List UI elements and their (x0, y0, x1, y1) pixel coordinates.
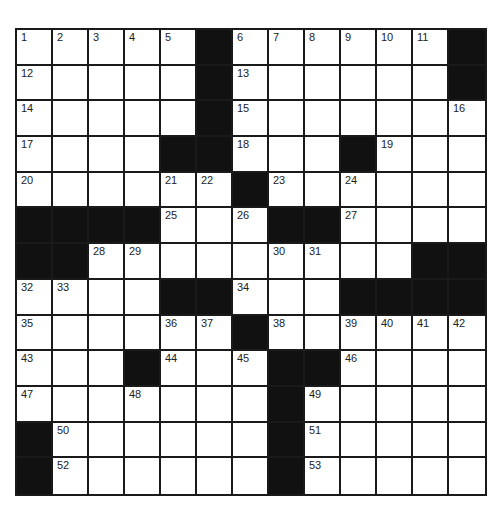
crossword-cell[interactable]: 20 (17, 173, 53, 209)
crossword-cell[interactable]: 29 (125, 244, 161, 280)
crossword-cell[interactable] (377, 351, 413, 387)
crossword-cell[interactable]: 14 (17, 101, 53, 137)
crossword-cell[interactable] (53, 387, 89, 423)
crossword-cell[interactable]: 25 (161, 208, 197, 244)
crossword-cell[interactable] (341, 101, 377, 137)
crossword-cell[interactable]: 18 (233, 137, 269, 173)
crossword-cell[interactable]: 31 (305, 244, 341, 280)
crossword-cell[interactable]: 37 (197, 316, 233, 352)
crossword-cell[interactable]: 22 (197, 173, 233, 209)
crossword-cell[interactable] (377, 244, 413, 280)
crossword-cell[interactable]: 42 (449, 316, 485, 352)
crossword-cell[interactable]: 32 (17, 280, 53, 316)
crossword-cell[interactable] (449, 137, 485, 173)
crossword-cell[interactable] (125, 66, 161, 102)
crossword-cell[interactable] (161, 387, 197, 423)
crossword-cell[interactable] (449, 458, 485, 494)
crossword-cell[interactable] (305, 280, 341, 316)
crossword-cell[interactable] (197, 208, 233, 244)
crossword-cell[interactable] (197, 423, 233, 459)
crossword-cell[interactable]: 34 (233, 280, 269, 316)
crossword-cell[interactable] (89, 351, 125, 387)
crossword-cell[interactable] (305, 137, 341, 173)
crossword-cell[interactable]: 33 (53, 280, 89, 316)
crossword-cell[interactable] (125, 101, 161, 137)
crossword-cell[interactable] (89, 280, 125, 316)
crossword-cell[interactable]: 6 (233, 30, 269, 66)
crossword-cell[interactable] (233, 458, 269, 494)
crossword-cell[interactable]: 51 (305, 423, 341, 459)
crossword-cell[interactable]: 35 (17, 316, 53, 352)
crossword-cell[interactable] (89, 173, 125, 209)
crossword-cell[interactable] (413, 173, 449, 209)
crossword-cell[interactable]: 15 (233, 101, 269, 137)
crossword-cell[interactable] (413, 101, 449, 137)
crossword-cell[interactable]: 30 (269, 244, 305, 280)
crossword-cell[interactable] (413, 137, 449, 173)
crossword-cell[interactable] (89, 101, 125, 137)
crossword-cell[interactable]: 7 (269, 30, 305, 66)
crossword-cell[interactable] (377, 387, 413, 423)
crossword-cell[interactable]: 4 (125, 30, 161, 66)
crossword-cell[interactable] (341, 244, 377, 280)
crossword-cell[interactable]: 11 (413, 30, 449, 66)
crossword-cell[interactable]: 41 (413, 316, 449, 352)
crossword-cell[interactable] (233, 387, 269, 423)
crossword-cell[interactable] (377, 423, 413, 459)
crossword-cell[interactable]: 9 (341, 30, 377, 66)
crossword-cell[interactable]: 52 (53, 458, 89, 494)
crossword-cell[interactable] (377, 458, 413, 494)
crossword-cell[interactable]: 40 (377, 316, 413, 352)
crossword-cell[interactable] (197, 458, 233, 494)
crossword-cell[interactable]: 53 (305, 458, 341, 494)
crossword-cell[interactable] (449, 351, 485, 387)
crossword-cell[interactable]: 36 (161, 316, 197, 352)
crossword-cell[interactable] (377, 173, 413, 209)
crossword-cell[interactable]: 27 (341, 208, 377, 244)
crossword-cell[interactable]: 19 (377, 137, 413, 173)
crossword-cell[interactable] (269, 280, 305, 316)
crossword-cell[interactable] (305, 66, 341, 102)
crossword-cell[interactable] (53, 316, 89, 352)
crossword-cell[interactable]: 50 (53, 423, 89, 459)
crossword-cell[interactable]: 5 (161, 30, 197, 66)
crossword-cell[interactable]: 47 (17, 387, 53, 423)
crossword-cell[interactable] (449, 173, 485, 209)
crossword-cell[interactable]: 38 (269, 316, 305, 352)
crossword-cell[interactable] (341, 387, 377, 423)
crossword-cell[interactable] (413, 387, 449, 423)
crossword-cell[interactable]: 3 (89, 30, 125, 66)
crossword-cell[interactable] (125, 173, 161, 209)
crossword-cell[interactable]: 44 (161, 351, 197, 387)
crossword-cell[interactable] (413, 423, 449, 459)
crossword-cell[interactable] (341, 458, 377, 494)
crossword-cell[interactable] (269, 137, 305, 173)
crossword-cell[interactable] (305, 316, 341, 352)
crossword-cell[interactable]: 2 (53, 30, 89, 66)
crossword-cell[interactable]: 1 (17, 30, 53, 66)
crossword-cell[interactable] (125, 423, 161, 459)
crossword-cell[interactable] (161, 66, 197, 102)
crossword-cell[interactable]: 23 (269, 173, 305, 209)
crossword-cell[interactable] (197, 244, 233, 280)
crossword-cell[interactable] (197, 351, 233, 387)
crossword-cell[interactable] (269, 101, 305, 137)
crossword-cell[interactable]: 16 (449, 101, 485, 137)
crossword-cell[interactable] (413, 351, 449, 387)
crossword-cell[interactable] (161, 458, 197, 494)
crossword-cell[interactable] (125, 458, 161, 494)
crossword-cell[interactable] (377, 101, 413, 137)
crossword-cell[interactable] (89, 66, 125, 102)
crossword-cell[interactable] (449, 387, 485, 423)
crossword-cell[interactable] (89, 137, 125, 173)
crossword-cell[interactable] (161, 423, 197, 459)
crossword-cell[interactable]: 13 (233, 66, 269, 102)
crossword-cell[interactable] (53, 351, 89, 387)
crossword-cell[interactable] (197, 387, 233, 423)
crossword-cell[interactable] (269, 66, 305, 102)
crossword-cell[interactable] (89, 387, 125, 423)
crossword-cell[interactable]: 21 (161, 173, 197, 209)
crossword-cell[interactable] (89, 316, 125, 352)
crossword-cell[interactable] (449, 423, 485, 459)
crossword-cell[interactable] (341, 423, 377, 459)
